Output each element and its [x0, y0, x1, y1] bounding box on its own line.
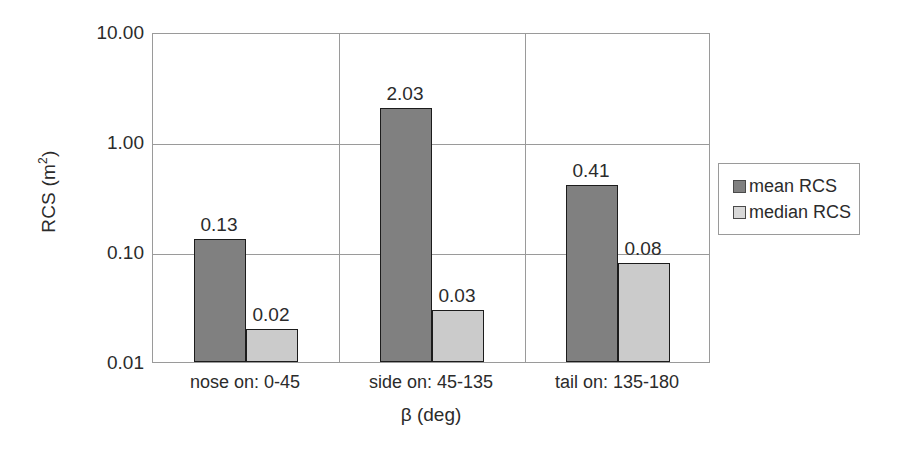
legend-swatch-mean — [733, 180, 746, 193]
y-axis-tick-label: 0.01 — [60, 352, 144, 374]
y-axis-tick-label: 10.00 — [60, 22, 144, 44]
bar-mean — [194, 239, 246, 362]
bar-value-label: 0.02 — [253, 304, 290, 326]
rcs-bar-chart: RCS (m2) 10.001.000.100.01 nose on: 0-45… — [0, 0, 923, 452]
legend: mean RCSmedian RCS — [718, 163, 860, 235]
category-divider — [525, 34, 526, 362]
category-divider — [339, 34, 340, 362]
y-axis-tick-label: 0.10 — [60, 242, 144, 264]
x-axis-category-label: nose on: 0-45 — [190, 372, 300, 393]
bar-value-label: 0.03 — [439, 285, 476, 307]
bar-value-label: 0.08 — [625, 238, 662, 260]
legend-item: median RCS — [733, 199, 859, 225]
bar-median — [432, 310, 484, 362]
x-axis-category-label: tail on: 135-180 — [555, 372, 679, 393]
plot-area — [152, 33, 710, 363]
bar-value-label: 0.13 — [201, 214, 238, 236]
legend-swatch-median — [733, 206, 746, 219]
x-axis-category-label: side on: 45-135 — [369, 372, 493, 393]
y-axis-tick-label: 1.00 — [60, 132, 144, 154]
bar-mean — [380, 108, 432, 362]
bar-median — [618, 263, 670, 362]
legend-label: mean RCS — [749, 176, 837, 197]
bar-mean — [566, 185, 618, 362]
x-axis-title: β (deg) — [152, 404, 710, 426]
legend-item: mean RCS — [733, 173, 859, 199]
bar-value-label: 0.41 — [573, 160, 610, 182]
y-axis-tick-labels: 10.001.000.100.01 — [48, 0, 144, 452]
bar-value-label: 2.03 — [387, 83, 424, 105]
bar-median — [246, 329, 298, 362]
legend-label: median RCS — [749, 202, 851, 223]
